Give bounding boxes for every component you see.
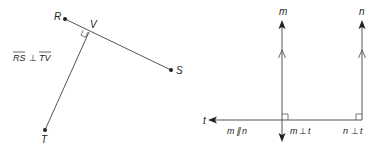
perpendicular-symbol: ⊥ bbox=[29, 53, 37, 63]
geometry-figure: R S T V RS ⊥ TV m n t bbox=[0, 0, 390, 155]
label-m: m bbox=[279, 6, 287, 17]
point-s bbox=[169, 68, 173, 72]
statement-m-parallel-n: m ∥ n bbox=[227, 126, 247, 136]
statement-a: n bbox=[343, 126, 348, 136]
statement-rs-perp-tv: RS ⊥ TV bbox=[13, 52, 51, 63]
statement-seg1: RS bbox=[13, 53, 26, 63]
label-r: R bbox=[54, 11, 61, 22]
segment-tv bbox=[45, 32, 89, 130]
segment-rs bbox=[65, 19, 171, 70]
statement-n-perp-t: n ⊥ t bbox=[343, 126, 363, 136]
label-t: t bbox=[203, 115, 207, 126]
statement-m-perp-t: m ⊥ t bbox=[290, 126, 311, 136]
left-diagram: R S T V RS ⊥ TV bbox=[13, 11, 183, 145]
statement-seg2: TV bbox=[39, 53, 51, 63]
statement-a: m bbox=[290, 126, 298, 136]
point-r bbox=[63, 17, 67, 21]
right-diagram: m n t m ∥ n m ⊥ t n ⊥ t bbox=[203, 6, 366, 142]
right-angle-marker-m bbox=[282, 114, 288, 120]
label-s: S bbox=[176, 65, 183, 76]
perpendicular-symbol: ⊥ bbox=[299, 126, 307, 136]
point-t bbox=[43, 128, 47, 132]
statement-b: t bbox=[360, 126, 363, 136]
right-angle-marker-n bbox=[356, 114, 362, 120]
label-t: T bbox=[41, 134, 48, 145]
label-v: V bbox=[90, 19, 98, 30]
label-n: n bbox=[359, 6, 365, 17]
perpendicular-symbol: ⊥ bbox=[351, 126, 359, 136]
statement-a: m bbox=[227, 126, 235, 136]
statement-b: t bbox=[308, 126, 311, 136]
statement-b: n bbox=[242, 126, 247, 136]
